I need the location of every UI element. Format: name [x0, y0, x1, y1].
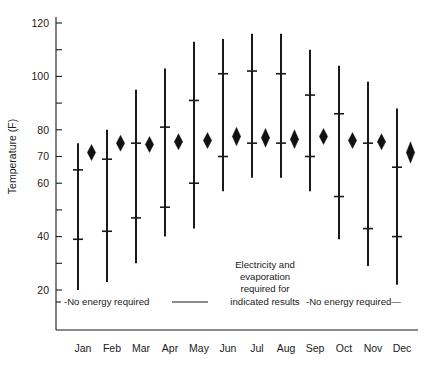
annotation-left-no-energy: -No energy required [64, 296, 149, 307]
diamond-marker [290, 130, 298, 149]
range-bar-group [131, 90, 141, 264]
annotation-center-line: evaporation [240, 271, 290, 282]
range-bar-group [247, 34, 257, 178]
diamond-marker [261, 128, 269, 147]
annotation-right-no-energy: -No energy required— [306, 296, 401, 307]
y-tick-label: 100 [31, 70, 49, 82]
x-tick-label: May [189, 342, 210, 354]
x-tick-label: Oct [336, 342, 352, 354]
x-tick-label: Jul [250, 342, 263, 354]
annotation-center-line: Electricity and [235, 259, 295, 270]
range-bar-group [218, 39, 228, 191]
range-bar-group [334, 66, 344, 240]
y-axis-title: Temperature (F) [6, 119, 18, 194]
y-tick-label: 40 [37, 230, 49, 242]
range-bar-group [276, 34, 286, 178]
diamond-marker [377, 134, 385, 150]
x-tick-label: Feb [103, 342, 121, 354]
range-bar-group [102, 130, 112, 282]
diamond-marker [203, 132, 211, 148]
y-axis-title-text: Temperature (F) [6, 119, 18, 194]
y-tick-label: 20 [37, 284, 49, 296]
diamond-marker [232, 127, 240, 146]
x-tick-label: Aug [277, 342, 296, 354]
data-series-layer [73, 34, 415, 290]
diamond-marker [406, 142, 414, 163]
diamond-marker [348, 132, 356, 148]
x-tick-label: Sep [306, 342, 325, 354]
annotation-center-line: required for [240, 283, 290, 294]
x-tick-labels: JanFebMarAprMayJunJulAugSepOctNovDec [75, 342, 412, 354]
x-tick-label: Nov [364, 342, 383, 354]
diamond-marker [145, 136, 153, 152]
range-bar-group [160, 68, 170, 236]
range-bar-group [305, 50, 315, 192]
chart-figure: 2040607080100120 Temperature (F) JanFebM… [0, 0, 426, 372]
diamond-marker [174, 134, 182, 150]
temperature-range-chart: 2040607080100120 Temperature (F) JanFebM… [0, 0, 426, 372]
range-bar-group [189, 42, 199, 229]
diamond-marker [87, 144, 95, 160]
annotation-center-line: indicated results [230, 296, 300, 307]
diamond-marker [116, 135, 124, 151]
range-bar-group [392, 108, 402, 284]
y-tick-label: 60 [37, 177, 49, 189]
y-tick-label: 80 [37, 124, 49, 136]
x-tick-label: Dec [393, 342, 412, 354]
x-tick-label: Mar [132, 342, 151, 354]
x-tick-label: Jan [75, 342, 92, 354]
diamond-marker [319, 128, 327, 144]
axis-layer [56, 17, 418, 330]
annotation-layer: -No energy requiredElectricity andevapor… [64, 259, 401, 307]
range-bar-group [73, 143, 83, 290]
y-tick-label: 70 [37, 150, 49, 162]
x-tick-label: Jun [220, 342, 237, 354]
x-tick-label: Apr [162, 342, 179, 354]
y-tick-label: 120 [31, 17, 49, 29]
range-bar-group [363, 82, 373, 266]
y-tick-labels: 2040607080100120 [31, 17, 49, 296]
